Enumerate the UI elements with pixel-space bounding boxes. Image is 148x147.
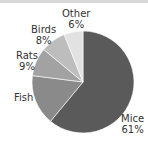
label-rats: Rats 9% [16, 50, 38, 72]
label-other: Other 6% [62, 8, 90, 30]
label-mice-pct: 61% [121, 124, 144, 135]
label-fish-name: Fish [14, 92, 33, 103]
label-fish: Fish [14, 92, 33, 103]
label-birds: Birds 8% [31, 24, 56, 46]
label-rats-name: Rats [16, 50, 38, 61]
label-birds-name: Birds [31, 24, 56, 35]
label-birds-pct: 8% [31, 35, 56, 46]
label-mice: Mice 61% [121, 113, 144, 135]
label-other-pct: 6% [62, 19, 90, 30]
label-other-name: Other [62, 8, 90, 19]
label-mice-name: Mice [121, 113, 144, 124]
label-rats-pct: 9% [16, 61, 38, 72]
